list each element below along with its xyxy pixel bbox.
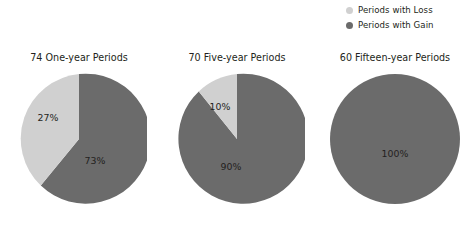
circle-marker-icon: [346, 22, 353, 29]
pie-svg-five-year: [169, 71, 305, 207]
chart-legend: Periods with Loss Periods with Gain: [346, 4, 434, 31]
pie-chart-title: 60 Fifteen-year Periods: [340, 52, 450, 64]
pie-chart-graphic: 100%: [327, 71, 463, 207]
pie-svg-one-year: [11, 71, 147, 207]
pie-chart-five-year: 70 Five-year Periods 10% 90%: [158, 52, 316, 207]
pie-chart-graphic: 27% 73%: [11, 71, 147, 207]
pie-chart-fifteen-year: 60 Fifteen-year Periods 100%: [316, 52, 474, 207]
pie-chart-title: 70 Five-year Periods: [189, 52, 286, 64]
pie-svg-fifteen-year: [327, 71, 463, 207]
pie-chart-title: 74 One-year Periods: [30, 52, 127, 64]
pie-slice-gain: [330, 74, 460, 204]
legend-item-label: Periods with Loss: [358, 5, 433, 15]
legend-item-periods-with-gain: Periods with Gain: [346, 19, 434, 31]
pie-chart-one-year: 74 One-year Periods 27% 73%: [0, 52, 158, 207]
legend-item-periods-with-loss: Periods with Loss: [346, 4, 434, 16]
pie-chart-row: 74 One-year Periods 27% 73% 70 Five-year…: [0, 52, 474, 207]
pie-chart-graphic: 10% 90%: [169, 71, 305, 207]
circle-marker-icon: [346, 7, 353, 14]
pie-slice-gain: [178, 74, 305, 204]
legend-item-label: Periods with Gain: [358, 20, 434, 30]
